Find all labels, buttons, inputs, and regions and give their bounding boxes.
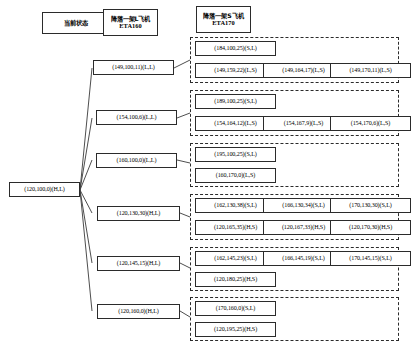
node-g6-r1-c0[interactable]: (120,195,25)(H,S) — [195, 322, 276, 337]
node-level1-5[interactable]: (120,145,15)(H,L) — [97, 256, 180, 271]
column-header-current-state-line-0: 当前状态 — [64, 19, 88, 27]
edge-root-to-l1-6 — [80, 190, 92, 311]
node-g1-r1-c2[interactable]: (149,170,11)(L,S) — [330, 63, 411, 78]
column-header-land-s-line-1: ETA170 — [212, 19, 234, 27]
node-g4-r0-c2[interactable]: (170,130,30)(S,L) — [330, 198, 411, 213]
node-level1-1[interactable]: (149,100,11)(L,L) — [93, 60, 174, 75]
edge-l1-2-to-g2 — [177, 113, 190, 118]
edge-root-to-l1-3 — [80, 160, 92, 190]
node-g3-r1-c0[interactable]: (160,170,0)(L,S) — [195, 168, 276, 183]
column-header-current-state: 当前状态 — [42, 12, 109, 34]
edge-l1-6-to-g6 — [180, 311, 190, 317]
edge-root-to-l1-2 — [80, 118, 92, 190]
node-level1-2[interactable]: (154,100,6)(L,L) — [96, 110, 177, 125]
node-g5-r1-c0[interactable]: (120,180,25)(H,S) — [195, 272, 276, 287]
node-g5-r0-c2[interactable]: (170,145,15)(S,L) — [330, 251, 411, 266]
node-level1-6[interactable]: (120,160,0)(H,L) — [97, 304, 180, 319]
edge-root-to-l1-1 — [80, 68, 92, 190]
edge-root-to-l1-5 — [80, 190, 92, 263]
node-root[interactable]: (120,100,0)(H,L) — [9, 182, 80, 197]
node-g3-r0-c0[interactable]: (195,100,25)(S,L) — [195, 147, 276, 162]
column-header-land-l-line-0: 降落一架L飞机 — [111, 15, 151, 23]
column-header-land-s: 降落一架S飞机 ETA170 — [196, 6, 251, 33]
edge-l1-1-to-g1 — [174, 60, 190, 68]
node-g6-r0-c0[interactable]: (170,160,0)(S,L) — [195, 301, 276, 316]
node-g2-r0-c0[interactable]: (189,100,25)(S,L) — [195, 94, 276, 109]
column-header-land-l: 降落一架L飞机 ETA160 — [103, 9, 158, 36]
edge-l1-3-to-g3 — [177, 160, 190, 163]
node-g4-r1-c2[interactable]: (120,170,30)(H,S) — [330, 220, 411, 235]
column-header-land-s-line-0: 降落一架S飞机 — [203, 12, 243, 20]
edge-l1-5-to-g5 — [180, 263, 190, 268]
node-g1-r0-c0[interactable]: (184,100,25)(S,L) — [195, 41, 276, 56]
edge-root-to-l1-4 — [80, 190, 92, 213]
node-g2-r1-c2[interactable]: (154,170,6)(L,S) — [330, 116, 411, 131]
column-header-land-l-line-1: ETA160 — [119, 22, 141, 30]
edge-l1-4-to-g4 — [180, 213, 190, 217]
node-level1-4[interactable]: (120,130,30)(H,L) — [97, 206, 180, 221]
node-level1-3[interactable]: (160,100,0)(L,L) — [96, 153, 177, 168]
